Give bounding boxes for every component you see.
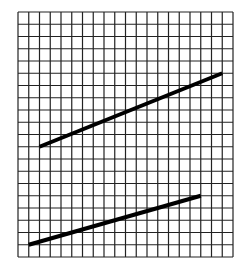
graph-paper-figure: [0, 0, 246, 275]
grid: [18, 12, 233, 257]
